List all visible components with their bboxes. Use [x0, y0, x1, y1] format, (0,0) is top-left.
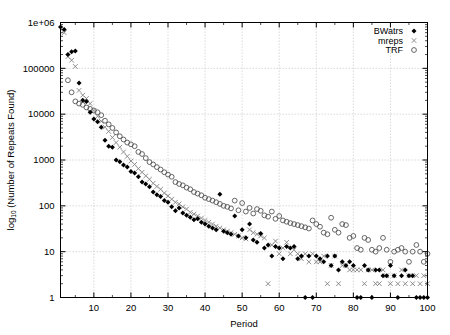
marker-open-circle	[329, 215, 334, 220]
marker-open-circle	[69, 90, 74, 95]
x-tick-label: 50	[237, 302, 248, 313]
marker-open-circle	[232, 198, 237, 203]
y-tick-label: 1000	[33, 154, 54, 165]
marker-filled-diamond	[254, 240, 259, 245]
marker-cross	[162, 191, 167, 196]
y-tick-label: 1e+06	[28, 17, 55, 28]
marker-filled-diamond	[251, 237, 256, 242]
marker-open-circle	[66, 78, 71, 83]
marker-filled-diamond	[240, 227, 245, 232]
x-tick-label: 90	[385, 302, 396, 313]
x-tick-label: 80	[348, 302, 359, 313]
legend-label-mreps: mreps	[378, 36, 404, 46]
marker-open-circle	[412, 48, 417, 53]
y-axis-title: log10 (Number of Repeats Found)	[5, 90, 17, 231]
series-bwatrs	[58, 24, 430, 300]
marker-cross	[125, 154, 130, 159]
chart-figure: 1101001000100001000001e+0610203040506070…	[0, 0, 450, 335]
marker-cross	[307, 260, 312, 265]
marker-open-circle	[236, 208, 241, 213]
marker-filled-diamond	[136, 174, 141, 179]
marker-filled-diamond	[247, 222, 252, 227]
marker-cross	[110, 135, 115, 140]
marker-open-circle	[318, 224, 323, 229]
series-mreps	[62, 30, 430, 286]
marker-cross	[412, 38, 417, 43]
marker-open-circle	[251, 211, 256, 216]
marker-filled-diamond	[102, 138, 107, 143]
marker-cross	[247, 227, 252, 232]
marker-cross	[106, 129, 111, 134]
marker-open-circle	[140, 152, 145, 157]
marker-open-circle	[381, 235, 386, 240]
marker-cross	[388, 281, 393, 286]
marker-filled-diamond	[336, 267, 341, 272]
marker-filled-diamond	[173, 208, 178, 213]
marker-cross	[418, 281, 423, 286]
marker-cross	[118, 145, 123, 150]
marker-open-circle	[377, 246, 382, 251]
marker-filled-diamond	[351, 263, 356, 268]
marker-open-circle	[247, 206, 252, 211]
marker-cross	[73, 64, 78, 69]
marker-filled-diamond	[65, 52, 70, 57]
series-trf	[66, 78, 430, 264]
x-tick-label: 40	[200, 302, 211, 313]
marker-cross	[303, 251, 308, 256]
marker-open-circle	[99, 113, 104, 118]
marker-cross	[396, 281, 401, 286]
y-tick-label: 1	[49, 292, 54, 303]
marker-open-circle	[384, 247, 389, 252]
marker-filled-diamond	[262, 246, 267, 251]
marker-cross	[273, 239, 278, 244]
y-axis-title-rest: (Number of Repeats Found)	[5, 90, 16, 211]
y-axis-title-base: log	[5, 218, 16, 231]
marker-filled-diamond	[169, 204, 174, 209]
marker-cross	[266, 281, 271, 286]
y-tick-label: 100000	[23, 63, 55, 74]
marker-cross	[362, 281, 367, 286]
marker-cross	[88, 101, 93, 106]
marker-open-circle	[114, 130, 119, 135]
legend-label-bwatrs: BWatrs	[374, 26, 404, 36]
legend-label-trf: TRF	[386, 45, 404, 55]
marker-cross	[336, 281, 341, 286]
y-tick-label: 100	[39, 200, 55, 211]
marker-filled-diamond	[399, 273, 404, 278]
marker-filled-diamond	[91, 117, 96, 122]
marker-open-circle	[336, 230, 341, 235]
marker-cross	[132, 162, 137, 167]
marker-filled-diamond	[314, 254, 319, 259]
marker-filled-diamond	[106, 144, 111, 149]
marker-filled-diamond	[299, 254, 304, 259]
scatter-plot: 1101001000100001000001e+0610203040506070…	[0, 0, 450, 335]
marker-filled-diamond	[110, 145, 115, 150]
marker-filled-diamond	[280, 256, 285, 261]
x-tick-label: 100	[420, 302, 436, 313]
x-tick-label: 10	[89, 302, 100, 313]
marker-cross	[358, 268, 363, 273]
marker-cross	[77, 88, 82, 93]
marker-cross	[169, 197, 174, 202]
marker-cross	[121, 150, 126, 155]
x-tick-label: 60	[274, 302, 285, 313]
marker-filled-diamond	[69, 49, 74, 54]
marker-cross	[277, 251, 282, 256]
x-axis-title: Period	[230, 318, 257, 329]
marker-open-circle	[414, 243, 419, 248]
marker-cross	[377, 281, 382, 286]
marker-open-circle	[407, 259, 412, 264]
marker-cross	[310, 251, 315, 256]
marker-cross	[325, 281, 330, 286]
marker-filled-diamond	[306, 254, 311, 259]
legend: BWatrsmrepsTRF	[374, 26, 417, 55]
marker-cross	[410, 281, 415, 286]
y-tick-label: 10000	[28, 108, 54, 119]
x-tick-label: 20	[126, 302, 137, 313]
marker-filled-diamond	[232, 214, 237, 219]
marker-filled-diamond	[77, 80, 82, 85]
marker-cross	[295, 251, 300, 256]
marker-open-circle	[269, 209, 274, 214]
marker-filled-diamond	[412, 29, 417, 34]
marker-filled-diamond	[73, 48, 78, 53]
